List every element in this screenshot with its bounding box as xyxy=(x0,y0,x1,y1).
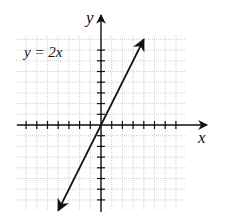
y-axis-label: y xyxy=(84,8,94,27)
graph-y-equals-2x: y = 2x y x xyxy=(0,0,225,223)
equation-label: y = 2x xyxy=(22,44,63,60)
x-axis-label: x xyxy=(197,128,206,147)
